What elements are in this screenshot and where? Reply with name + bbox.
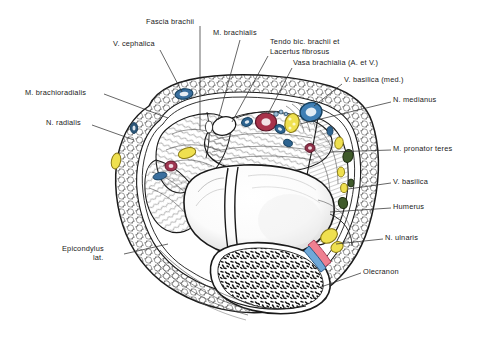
label-fascia-brachii: Fascia brachii bbox=[146, 17, 194, 26]
label-epicondylus-lat-line1: Epicondylus bbox=[62, 244, 104, 253]
a-collateralis-ulnaris-vessel bbox=[305, 144, 315, 153]
septal-vessel bbox=[205, 121, 212, 133]
label-n-medianus: N. medianus bbox=[393, 95, 436, 104]
label-v-basilica: V. basilica bbox=[393, 177, 428, 186]
left-subcutaneous-vein-lumen bbox=[133, 125, 136, 130]
label-m-pronator-teres: M. pronator teres bbox=[393, 144, 452, 153]
label-humerus: Humerus bbox=[393, 202, 424, 211]
label-epicondylus-lat-line2: lat. bbox=[93, 253, 104, 262]
label-lacertus-fibrosus: Lacertus fibrosus bbox=[270, 47, 329, 56]
label-n-ulnaris: N. ulnaris bbox=[385, 233, 418, 242]
label-m-brachioradialis: M. brachioradialis bbox=[25, 88, 86, 97]
elbow-cross-section-figure bbox=[0, 0, 494, 347]
a-brachialis-vessel bbox=[256, 113, 277, 131]
label-tendo-bic-brachii: Tendo bic. brachii et bbox=[270, 37, 340, 46]
label-vasa-brachialia: Vasa brachialia (A. et V.) bbox=[293, 58, 378, 67]
v-basilica-tributary-vessel bbox=[327, 127, 333, 136]
label-n-radialis: N. radialis bbox=[46, 118, 81, 127]
label-m-brachialis: M. brachialis bbox=[213, 28, 257, 37]
a-radialis-recurrens-vessel bbox=[165, 161, 177, 171]
label-v-basilica-med: V. basilica (med.) bbox=[344, 75, 404, 84]
label-olecranon: Olecranon bbox=[363, 267, 399, 276]
label-v-cephalica: V. cephalica bbox=[113, 39, 155, 48]
